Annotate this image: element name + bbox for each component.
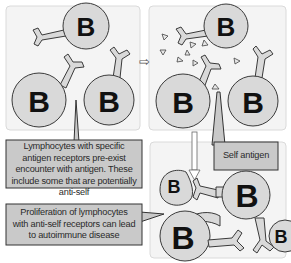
self-antigen-label: Self antigen — [214, 150, 278, 162]
pre-exist-text: Lymphocytes with specific antigen recept… — [9, 141, 139, 199]
b-cell-label: B — [28, 85, 50, 118]
b-cell-label: B — [242, 86, 264, 119]
b-cell-label: B — [77, 12, 96, 42]
b-cell-label: B — [168, 177, 181, 197]
b-cell-label: B — [217, 12, 236, 42]
b-cell-label: B — [275, 227, 288, 247]
b-cell-label: B — [98, 85, 120, 118]
b-cell-label: B — [172, 86, 194, 119]
proliferation-text: Proliferation of lymphocytes with anti-s… — [12, 207, 136, 242]
b-cell-label: B — [171, 220, 194, 256]
right-arrow-icon: ⇨ — [139, 54, 150, 69]
b-cell-label: B — [235, 178, 258, 214]
